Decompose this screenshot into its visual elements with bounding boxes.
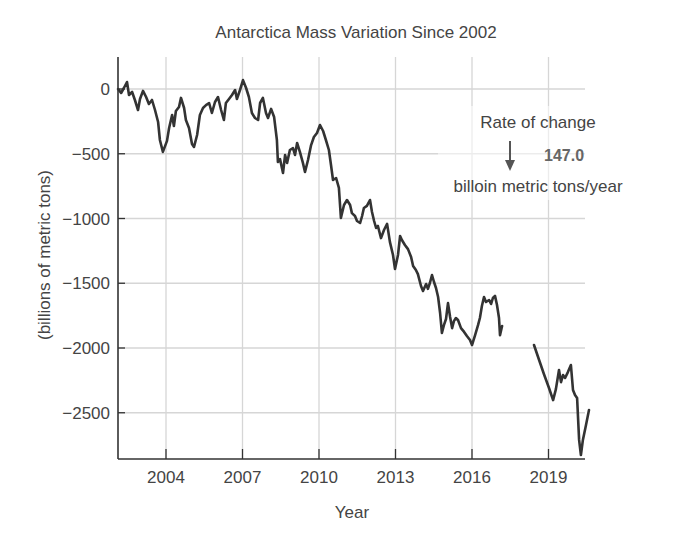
x-tick-label: 2010: [300, 468, 338, 487]
chart: Antarctica Mass Variation Since 2002 0−5…: [0, 0, 682, 552]
x-tick-label: 2013: [377, 468, 415, 487]
x-tick-label: 2004: [147, 468, 185, 487]
x-tick-label: 2007: [224, 468, 262, 487]
y-axis-title: (billions of metric tons): [35, 170, 54, 340]
y-tick-label: −1000: [62, 210, 110, 229]
y-axis-ticks: 0−500−1000−1500−2000−2500: [62, 80, 125, 423]
chart-title: Antarctica Mass Variation Since 2002: [215, 23, 496, 42]
y-tick-label: −2500: [62, 404, 110, 423]
x-tick-label: 2016: [453, 468, 491, 487]
rate-annotation-value: 147.0: [544, 147, 584, 164]
y-tick-label: −500: [72, 145, 110, 164]
y-tick-label: −1500: [62, 274, 110, 293]
y-tick-label: 0: [101, 80, 110, 99]
x-axis-title: Year: [335, 503, 370, 522]
rate-annotation-units: billoin metric tons/year: [453, 177, 622, 196]
rate-annotation: Rate of change 147.0 billoin metric tons…: [438, 106, 660, 200]
rate-annotation-heading: Rate of change: [480, 113, 595, 132]
x-axis-ticks: 200420072010201320162019: [147, 449, 567, 487]
y-tick-label: −2000: [62, 339, 110, 358]
mass-variation-line: [534, 345, 589, 455]
x-tick-label: 2019: [530, 468, 568, 487]
